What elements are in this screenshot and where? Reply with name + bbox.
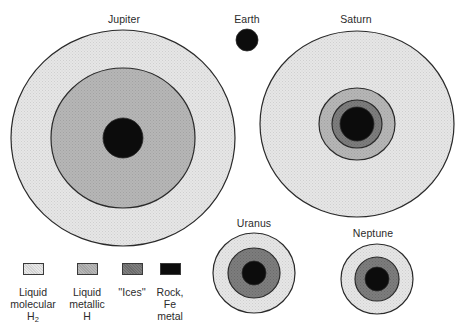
saturn-rock-layer [340,107,374,141]
planet-label-saturn: Saturn [316,13,396,25]
planet-label-uranus: Uranus [214,217,294,229]
legend-label-line: metal [140,310,200,322]
planet-label-earth: Earth [207,13,287,25]
legend-label-line: H [57,310,117,322]
legend-label-line: H2 [3,310,63,322]
planet-jupiter [11,30,235,246]
planet-label-jupiter: Jupiter [84,13,164,25]
legend-swatch-metallic-h [77,263,98,275]
planet-earth [236,29,258,51]
legend-label-line: Rock, [140,286,200,298]
planet-saturn [260,31,454,217]
uranus-rock-layer [242,261,266,285]
legend-label-line: molecular [3,298,63,310]
planet-interiors-diagram: JupiterEarthSaturnUranusNeptune Liquidmo… [0,0,466,331]
legend-swatch-rock [160,263,181,275]
legend-item-molecular-h2: LiquidmolecularH2 [3,263,63,322]
legend-subscript: 2 [35,315,39,324]
legend-label-line: Fe [140,298,200,310]
planet-neptune [341,244,413,314]
legend-item-rock: Rock,Femetal [140,263,200,322]
legend-label: Rock,Femetal [140,286,200,322]
neptune-rock-layer [365,267,389,291]
jupiter-rock-layer [103,118,143,158]
planet-label-neptune: Neptune [333,227,413,239]
earth-rock-layer [236,29,258,51]
legend-swatch-molecular-h2 [23,263,44,275]
legend-label: LiquidmolecularH2 [3,286,63,322]
planet-uranus [213,233,295,313]
legend-label-line: metallic [57,298,117,310]
legend-label-line: Liquid [3,286,63,298]
